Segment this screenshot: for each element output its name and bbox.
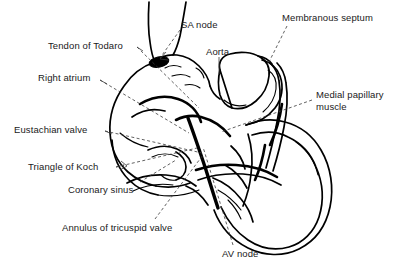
aortic-root-outline bbox=[219, 52, 283, 125]
label-medial-papillary-muscle: Medial papillary muscle bbox=[316, 89, 393, 112]
heart-anatomy-figure: Tendon of Todaro Right atrium Eustachian… bbox=[0, 0, 393, 265]
label-membranous-septum: Membranous septum bbox=[282, 12, 373, 24]
leader-membranous-septum bbox=[268, 26, 287, 64]
label-eustachian-valve: Eustachian valve bbox=[14, 124, 87, 136]
label-right-atrium: Right atrium bbox=[38, 72, 90, 84]
leader-av-node bbox=[203, 147, 233, 245]
label-sa-node: SA node bbox=[181, 19, 218, 31]
leader-coronary-sinus bbox=[140, 160, 176, 182]
label-av-node: AV node bbox=[222, 248, 258, 260]
tricuspid-annulus-line bbox=[176, 116, 281, 208]
label-tendon-of-todaro: Tendon of Todaro bbox=[48, 40, 123, 52]
label-annulus-of-tricuspid-valve: Annulus of tricuspid valve bbox=[62, 222, 172, 234]
leader-eustachian-valve bbox=[105, 131, 202, 153]
leader-lines bbox=[100, 26, 312, 245]
papillary-muscles-and-trabeculae bbox=[213, 104, 282, 222]
label-aorta: Aorta bbox=[206, 46, 229, 58]
superior-vena-cava-outline bbox=[148, 2, 186, 62]
leader-tendon-of-todaro bbox=[137, 47, 199, 108]
label-triangle-of-koch: Triangle of Koch bbox=[28, 161, 98, 173]
label-coronary-sinus: Coronary sinus bbox=[68, 184, 133, 196]
